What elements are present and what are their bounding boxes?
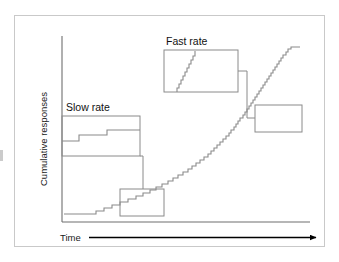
y-axis-label: Cumulative responses — [38, 92, 49, 186]
inset-box-fast-rate — [164, 50, 238, 92]
figure-container: Cumulative responses Time Slow rate Fast… — [0, 0, 339, 262]
fast-rate-label: Fast rate — [166, 35, 208, 47]
x-axis-label: Time — [60, 232, 81, 243]
connector-slow-rate — [140, 156, 143, 189]
cumulative-record-chart: Cumulative responses Time Slow rate Fast… — [0, 0, 339, 262]
inset-curve-fast-rate — [177, 51, 195, 92]
magnifier-box-fast-rate — [255, 105, 302, 132]
slow-rate-label: Slow rate — [66, 101, 110, 113]
cumulative-response-curve — [64, 47, 300, 214]
inset-box-slow-rate — [62, 116, 140, 156]
connector-fast-rate — [238, 71, 255, 118]
inset-curve-slow-rate — [62, 130, 140, 141]
